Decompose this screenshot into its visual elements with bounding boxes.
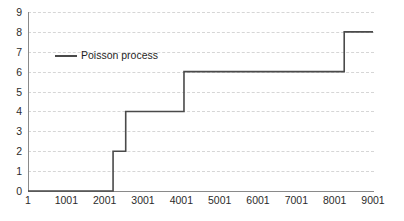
x-tick-label-6001: 6001 bbox=[246, 195, 269, 206]
y-tick-label-7: 7 bbox=[0, 47, 22, 57]
chart-legend: Poisson process bbox=[55, 50, 158, 61]
y-tick-label-5: 5 bbox=[0, 87, 22, 97]
y-tick-label-2: 2 bbox=[0, 146, 22, 156]
figure-caption bbox=[0, 211, 404, 221]
y-tick-label-6: 6 bbox=[0, 67, 22, 77]
x-tick-label-3001: 3001 bbox=[131, 195, 154, 206]
legend-label-poisson-process: Poisson process bbox=[81, 50, 158, 61]
series-poisson-process bbox=[28, 12, 373, 191]
y-tick-label-3: 3 bbox=[0, 126, 22, 136]
x-tick-label-8001: 8001 bbox=[323, 195, 346, 206]
figure-container: 0123456789 11001200130014001500160017001… bbox=[0, 0, 404, 221]
x-tick-label-9001: 9001 bbox=[361, 195, 384, 206]
x-tick-label-1001: 1001 bbox=[55, 195, 78, 206]
x-tick-label-1: 1 bbox=[25, 195, 31, 206]
x-tick-label-7001: 7001 bbox=[285, 195, 308, 206]
plot-area bbox=[28, 12, 373, 191]
x-tick-label-4001: 4001 bbox=[170, 195, 193, 206]
legend-line-swatch bbox=[55, 55, 77, 57]
y-tick-label-1: 1 bbox=[0, 166, 22, 176]
y-tick-label-8: 8 bbox=[0, 27, 22, 37]
y-tick-label-0: 0 bbox=[0, 186, 22, 196]
y-tick-label-9: 9 bbox=[0, 7, 22, 17]
x-tick-label-5001: 5001 bbox=[208, 195, 231, 206]
y-tick-label-4: 4 bbox=[0, 106, 22, 116]
x-tick-label-2001: 2001 bbox=[93, 195, 116, 206]
